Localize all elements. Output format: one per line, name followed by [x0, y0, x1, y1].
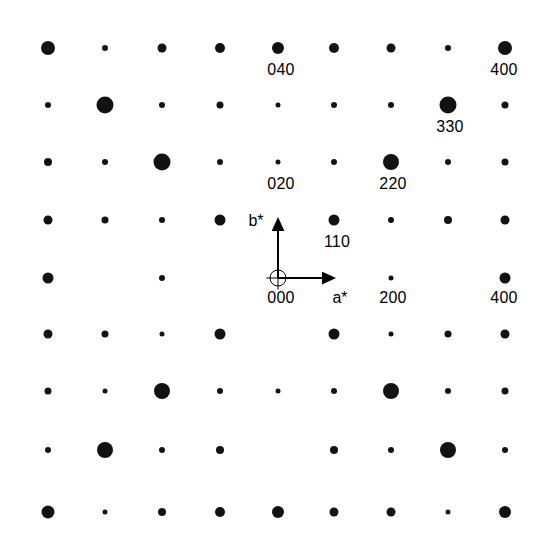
diffraction-spot — [329, 329, 340, 340]
diffraction-spot — [216, 446, 224, 454]
reflection-label: 000 — [267, 290, 294, 306]
diffraction-spot — [388, 102, 394, 108]
diffraction-spot — [502, 102, 509, 109]
diffraction-spot — [97, 442, 113, 458]
diffraction-spot — [388, 217, 394, 223]
diffraction-spot — [102, 45, 108, 51]
diffraction-spot — [276, 160, 281, 165]
diffraction-spot — [440, 442, 456, 458]
reflection-label: 110 — [324, 234, 350, 250]
diffraction-spot — [501, 216, 510, 225]
diffraction-spot — [330, 508, 339, 517]
diffraction-spot — [388, 447, 394, 453]
diffraction-spot — [329, 215, 340, 226]
diffraction-spot — [272, 506, 284, 518]
diffraction-spot — [102, 331, 109, 338]
diffraction-spot — [383, 154, 399, 170]
diffraction-spot — [276, 103, 281, 108]
diffraction-spot — [159, 217, 165, 223]
diffraction-spot — [215, 43, 225, 53]
diffraction-spot — [215, 329, 226, 340]
diffraction-spot — [158, 508, 166, 516]
diffraction-spot — [331, 388, 337, 394]
reflection-label: 400 — [490, 290, 517, 306]
diffraction-spot — [44, 158, 52, 166]
diffraction-spot — [159, 447, 165, 453]
diffraction-spot — [330, 446, 338, 454]
diffraction-spot — [102, 159, 108, 165]
diffraction-spot — [159, 102, 165, 108]
diffraction-spot — [272, 42, 284, 54]
diffraction-spot — [217, 388, 223, 394]
diffraction-spot — [389, 276, 394, 281]
diffraction-spot — [43, 273, 54, 284]
reflection-label: 200 — [379, 290, 406, 306]
reflection-label: 220 — [379, 176, 406, 192]
diffraction-spot — [445, 159, 451, 165]
diffraction-spot — [446, 510, 451, 515]
diffraction-spot — [440, 97, 457, 114]
diffraction-spot — [45, 447, 51, 453]
diffraction-spot — [160, 332, 165, 337]
diffraction-spot — [97, 97, 114, 114]
diffraction-spot — [41, 41, 55, 55]
diffraction-spot — [154, 154, 171, 171]
a-star-axis-label: a* — [332, 290, 347, 306]
diffraction-spot — [215, 507, 225, 517]
diffraction-spot — [445, 388, 451, 394]
diffraction-spot — [154, 383, 170, 399]
reflection-label: 040 — [267, 62, 294, 78]
reflection-label: 020 — [267, 176, 294, 192]
diffraction-spot — [331, 102, 337, 108]
diffraction-spot — [383, 383, 399, 399]
diffraction-spot — [499, 506, 511, 518]
diffraction-spot — [445, 331, 452, 338]
diffraction-spot — [444, 216, 452, 224]
diffraction-spot — [276, 389, 281, 394]
diffraction-spot — [103, 389, 108, 394]
diffraction-spot — [502, 159, 509, 166]
diffraction-spot — [500, 273, 511, 284]
diffraction-pattern-figure: 040400330020220110000200400 a* b* — [0, 0, 544, 550]
diffraction-spot — [445, 45, 451, 51]
diffraction-spot — [502, 388, 509, 395]
diffraction-spot — [45, 102, 51, 108]
diffraction-spot — [502, 447, 508, 453]
diffraction-spot — [501, 330, 510, 339]
diffraction-spot — [217, 102, 224, 109]
diffraction-spot — [44, 330, 53, 339]
reflection-label: 400 — [490, 62, 517, 78]
diffraction-spot — [215, 215, 226, 226]
diffraction-spot — [102, 217, 109, 224]
diffraction-spot — [498, 41, 512, 55]
diffraction-spot — [44, 216, 53, 225]
diffraction-spot — [387, 44, 396, 53]
diffraction-spot — [331, 159, 337, 165]
diffraction-spot — [42, 506, 55, 519]
diffraction-spot — [103, 510, 108, 515]
b-star-axis-label: b* — [248, 213, 263, 229]
diffraction-spot — [217, 159, 223, 165]
diffraction-spot — [389, 332, 394, 337]
reflection-label: 330 — [436, 119, 463, 135]
origin-crossed-circle-icon — [270, 270, 287, 287]
diffraction-spot — [159, 275, 165, 281]
diffraction-spot — [45, 388, 52, 395]
diffraction-spot — [387, 508, 396, 517]
diffraction-spot — [329, 43, 339, 53]
diffraction-spot — [158, 44, 167, 53]
